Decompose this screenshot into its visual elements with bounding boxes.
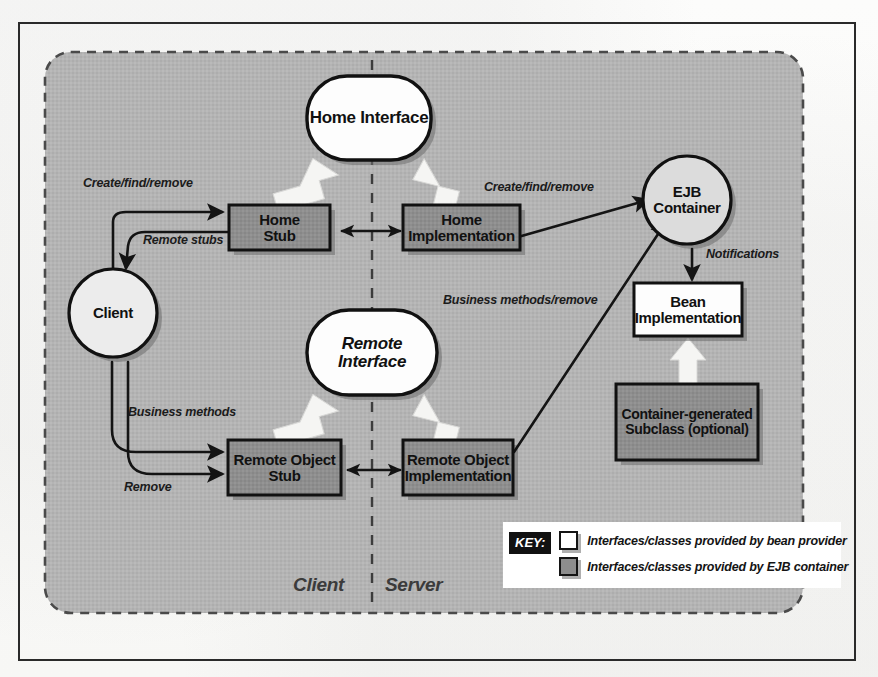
- key-swatch-bean-provider: [559, 531, 578, 550]
- key-row-ejb-container: Interfaces/classes provided by EJB conta…: [559, 557, 848, 576]
- key-text-ejb-container: Interfaces/classes provided by EJB conta…: [587, 560, 848, 574]
- node-remote-interface: [307, 310, 437, 395]
- key-row-bean-provider: Interfaces/classes provided by bean prov…: [559, 531, 848, 550]
- node-home-stub: [229, 205, 330, 250]
- node-client: [69, 269, 157, 357]
- node-remote-object-implementation: [403, 440, 513, 495]
- key-swatch-ejb-container: [559, 557, 578, 576]
- node-ejb-container: [643, 156, 731, 244]
- key-tag-label: KEY:: [509, 532, 551, 554]
- node-remote-object-stub: [228, 440, 341, 495]
- diagram-canvas: Home Interface Remote Interface Client E…: [0, 0, 878, 677]
- key-legend: KEY: Interfaces/classes provided by bean…: [503, 522, 841, 588]
- node-container-generated-subclass: [616, 384, 758, 460]
- node-home-implementation: [403, 205, 520, 250]
- node-bean-implementation: [634, 283, 742, 336]
- node-home-interface: [307, 76, 431, 160]
- key-text-bean-provider: Interfaces/classes provided by bean prov…: [587, 534, 846, 548]
